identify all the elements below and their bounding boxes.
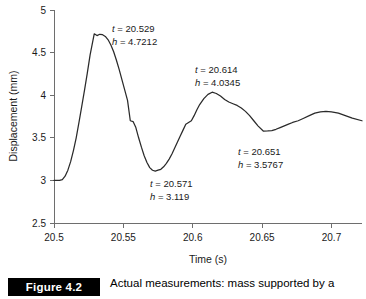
y-axis-ticks [50, 10, 54, 223]
chart-plot-area: 2.533.544.55 Displacement (mm) 20.520.55… [0, 0, 366, 268]
annotation-t-symbol: t [195, 64, 198, 75]
annotation-height-label: h = 3.119 [150, 190, 193, 203]
figure-caption-block: Figure 4.2 Actual measurements: mass sup… [0, 268, 366, 299]
y-axis-title: Displacement (mm) [7, 70, 19, 161]
x-axis-tick-label: 20.5 [44, 232, 64, 243]
annotation-h-symbol: h [112, 36, 117, 47]
x-axis-ticks [54, 223, 331, 228]
annotation-time-label: t = 20.614 [195, 63, 240, 76]
y-axis-tick-label: 4.5 [32, 47, 46, 58]
annotation-t-symbol: t [150, 178, 153, 189]
annotation-height-label: h = 4.0345 [195, 76, 240, 89]
x-axis-tick-label: 20.6 [183, 232, 203, 243]
y-axis-tick-label: 3 [40, 175, 46, 186]
displacement-time-line-chart: 2.533.544.55 Displacement (mm) 20.520.55… [0, 0, 366, 268]
annotation-t-symbol: t [238, 146, 241, 157]
annotation-h-symbol: h [238, 159, 243, 170]
displacement-curve [54, 34, 362, 181]
annotation-peak-2: t = 20.614h = 4.0345 [195, 63, 240, 89]
figure-container: 2.533.544.55 Displacement (mm) 20.520.55… [0, 0, 366, 299]
y-axis-tick-labels: 2.533.544.55 [32, 5, 46, 229]
y-axis-tick-label: 4 [40, 90, 46, 101]
x-axis-tick-label: 20.55 [111, 232, 136, 243]
annotation-height-label: h = 4.7212 [112, 35, 157, 48]
x-axis-tick-label: 20.65 [250, 232, 275, 243]
annotation-time-label: t = 20.651 [238, 145, 283, 158]
annotation-peak-1: t = 20.529h = 4.7212 [112, 22, 157, 48]
x-axis-title: Time (s) [189, 253, 227, 265]
x-axis-tick-label: 20.7 [322, 232, 342, 243]
annotation-h-symbol: h [195, 77, 200, 88]
figure-caption-text: Actual measurements: mass supported by a [110, 276, 360, 290]
y-axis-tick-label: 2.5 [32, 218, 46, 229]
annotation-time-label: t = 20.529 [112, 22, 157, 35]
y-axis: 2.533.544.55 Displacement (mm) [7, 5, 54, 229]
annotation-trough-2: t = 20.651h = 3.5767 [238, 145, 283, 171]
y-axis-tick-label: 3.5 [32, 132, 46, 143]
figure-number-tag: Figure 4.2 [8, 278, 100, 296]
annotation-trough-1: t = 20.571h = 3.119 [150, 177, 193, 203]
annotation-h-symbol: h [150, 191, 155, 202]
annotation-time-label: t = 20.571 [150, 177, 193, 190]
y-axis-tick-label: 5 [40, 5, 46, 16]
annotation-height-label: h = 3.5767 [238, 158, 283, 171]
x-axis-tick-labels: 20.520.5520.620.6520.7 [44, 232, 341, 243]
x-axis: 20.520.5520.620.6520.7 Time (s) [44, 223, 362, 265]
annotation-t-symbol: t [112, 23, 115, 34]
